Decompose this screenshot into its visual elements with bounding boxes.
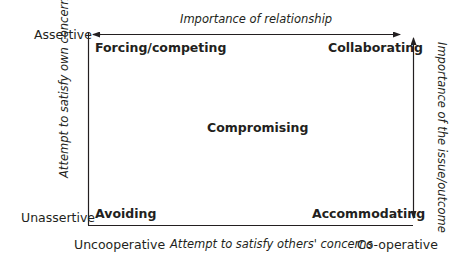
quadrant-compromising: Compromising — [207, 120, 308, 135]
left-axis-label: Attempt to satisfy own concerns — [57, 0, 71, 178]
quadrant-collaborating: Collaborating — [328, 40, 423, 55]
unassertive-label: Unassertive — [21, 210, 95, 225]
quadrant-avoiding: Avoiding — [95, 206, 156, 221]
bottom-axis-label: Attempt to satisfy others' concerns — [170, 237, 373, 251]
uncooperative-label: Uncooperative — [74, 237, 165, 252]
quadrant-forcing-competing: Forcing/competing — [95, 40, 226, 55]
quadrant-accommodating: Accommodating — [312, 206, 425, 221]
cooperative-label: Co-operative — [357, 237, 438, 252]
top-axis-label: Importance of relationship — [180, 12, 332, 26]
right-axis-label: Importance of the issue/outcome — [435, 42, 449, 233]
